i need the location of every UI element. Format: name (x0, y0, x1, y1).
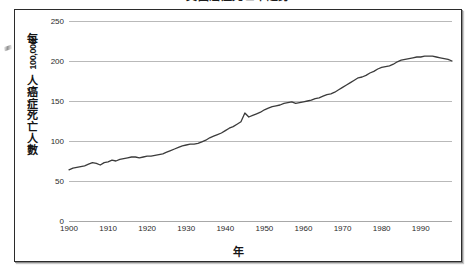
x-tick-label-1970: 1970 (334, 224, 352, 233)
y-tick-label-100: 100 (51, 137, 64, 146)
y-tick-label-50: 50 (55, 177, 64, 186)
x-tick-label-1990: 1990 (412, 224, 430, 233)
y-axis-title-char-5: 死 (27, 109, 38, 121)
x-tick-label-1930: 1930 (177, 224, 195, 233)
data-series-line (69, 21, 452, 221)
y-tick-label-250: 250 (51, 17, 64, 26)
y-axis-title-char-3: 癌 (27, 86, 38, 98)
x-tick-label-1910: 1910 (99, 224, 117, 233)
chart-figure: 美國癌症死亡率趨勢 每 100,000 人 癌 症 死 亡 人 數 年 0501… (0, 0, 476, 280)
y-axis-title-char-7: 人 (27, 133, 38, 145)
chart-title: 美國癌症死亡率趨勢 (0, 0, 476, 3)
gridline-y-0 (69, 221, 452, 222)
y-axis-title: 每 100,000 人 癌 症 死 亡 人 數 (24, 34, 41, 157)
y-axis-title-char-8: 數 (27, 144, 38, 156)
y-axis-title-char-2: 人 (27, 75, 38, 87)
x-tick-label-1950: 1950 (256, 224, 274, 233)
y-axis-title-char-4: 症 (27, 98, 38, 110)
x-tick-label-1900: 1900 (60, 224, 78, 233)
scan-artifact-speck (4, 45, 13, 51)
x-tick-label-1920: 1920 (138, 224, 156, 233)
x-tick-label-1980: 1980 (373, 224, 391, 233)
plot-area: 050100150200250 190019101920193019401950… (69, 21, 452, 221)
cancer-death-rate-line (69, 56, 452, 170)
y-tick-label-150: 150 (51, 97, 64, 106)
y-axis-title-char-1: 100,000 (27, 52, 39, 69)
x-tick-label-1940: 1940 (216, 224, 234, 233)
y-tick-label-200: 200 (51, 57, 64, 66)
x-axis-title: 年 (0, 243, 476, 259)
x-tick-label-1960: 1960 (295, 224, 313, 233)
y-axis-title-char-6: 亡 (27, 121, 38, 133)
